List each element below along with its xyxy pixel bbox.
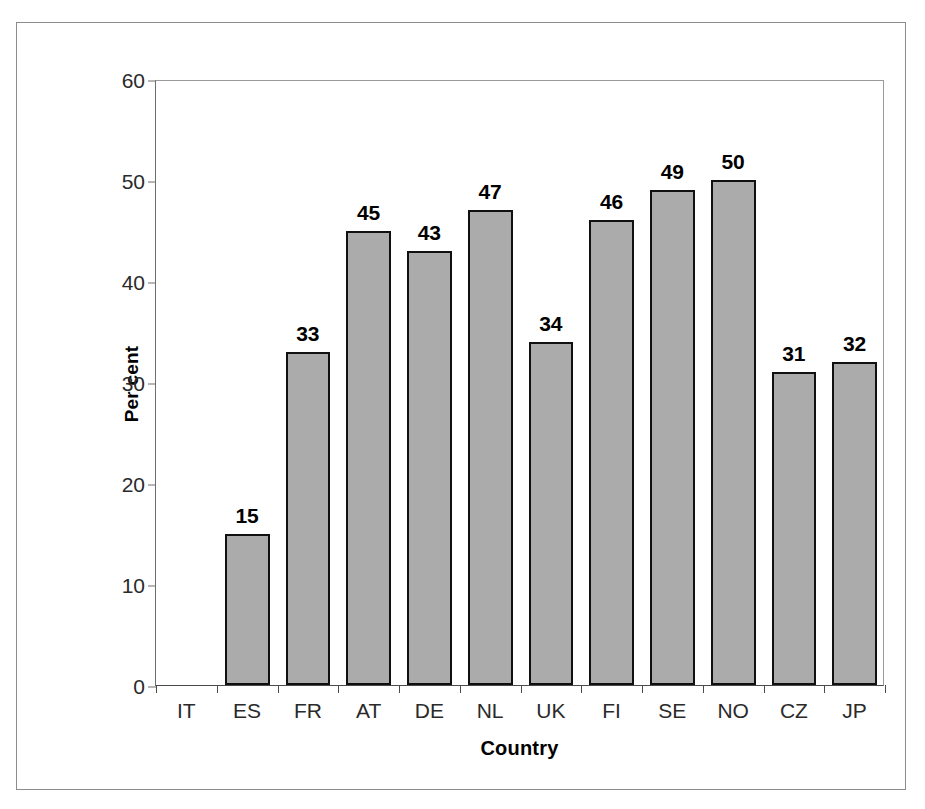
figure: Per cent 6050403020100 15334543473446495… [0, 0, 925, 809]
x-tick-label-es: ES [217, 699, 278, 723]
page-bottom-cutoff-text [18, 804, 438, 809]
x-tick-label-cz: CZ [764, 699, 825, 723]
bar-de[interactable] [407, 251, 452, 685]
x-tick-label-uk: UK [521, 699, 582, 723]
x-tick-mark [764, 685, 765, 693]
x-tick-mark [278, 685, 279, 693]
bar-value-label: 31 [764, 343, 825, 364]
bar-value-label: 46 [581, 191, 642, 212]
bar-se[interactable] [650, 190, 695, 685]
x-tick-label-de: DE [399, 699, 460, 723]
x-tick-label-nl: NL [460, 699, 521, 723]
bar-fi[interactable] [589, 220, 634, 685]
bars-layer: 1533454347344649503132 [156, 81, 883, 685]
y-tick-label: 60 [122, 70, 156, 92]
bar-value-label: 43 [399, 222, 460, 243]
x-tick-mark [581, 685, 582, 693]
figure-frame: Per cent 6050403020100 15334543473446495… [16, 22, 906, 790]
bar-slot: 31 [764, 81, 825, 685]
y-tick-label: 10 [122, 575, 156, 597]
bar-slot: 47 [460, 81, 521, 685]
bar-value-label: 15 [217, 505, 278, 526]
bar-value-label: 50 [703, 151, 764, 172]
bar-slot: 43 [399, 81, 460, 685]
x-tick-label-at: AT [338, 699, 399, 723]
x-tick-label-se: SE [642, 699, 703, 723]
bar-slot: 49 [642, 81, 703, 685]
bar-value-label: 47 [460, 181, 521, 202]
bar-slot: 33 [278, 81, 339, 685]
x-tick-mark [824, 685, 825, 693]
x-tick-label-fr: FR [278, 699, 339, 723]
x-tick-mark [521, 685, 522, 693]
bar-value-label: 34 [521, 313, 582, 334]
bar-uk[interactable] [529, 342, 574, 685]
y-tick-label: 50 [122, 171, 156, 193]
x-tick-mark [338, 685, 339, 693]
bar-jp[interactable] [832, 362, 877, 685]
bar-value-label: 32 [824, 333, 885, 354]
x-tick-mark [217, 685, 218, 693]
x-tick-label-jp: JP [824, 699, 885, 723]
x-tick-label-it: IT [156, 699, 217, 723]
bar-nl[interactable] [468, 210, 513, 685]
bar-value-label: 33 [278, 323, 339, 344]
bar-slot: 45 [338, 81, 399, 685]
y-tick-label: 20 [122, 474, 156, 496]
bar-slot [156, 81, 217, 685]
bar-at[interactable] [346, 231, 391, 686]
y-tick-label: 0 [133, 676, 156, 698]
y-tick-label: 30 [122, 373, 156, 395]
x-tick-mark [703, 685, 704, 693]
x-tick-mark [156, 685, 157, 693]
bar-cz[interactable] [772, 372, 817, 685]
bar-slot: 34 [521, 81, 582, 685]
bar-slot: 15 [217, 81, 278, 685]
x-tick-mark [885, 685, 886, 693]
bar-es[interactable] [225, 534, 270, 686]
bar-value-label: 49 [642, 161, 703, 182]
bar-slot: 50 [703, 81, 764, 685]
x-axis-title: Country [156, 737, 883, 760]
x-tick-mark [399, 685, 400, 693]
bar-value-label: 45 [338, 202, 399, 223]
bar-slot: 46 [581, 81, 642, 685]
x-tick-label-no: NO [703, 699, 764, 723]
bar-slot: 32 [824, 81, 885, 685]
x-tick-mark [642, 685, 643, 693]
bar-fr[interactable] [286, 352, 331, 685]
x-tick-label-fi: FI [581, 699, 642, 723]
x-tick-mark [460, 685, 461, 693]
plot-area: Per cent 6050403020100 15334543473446495… [155, 80, 884, 686]
y-tick-label: 40 [122, 272, 156, 294]
bar-no[interactable] [711, 180, 756, 685]
